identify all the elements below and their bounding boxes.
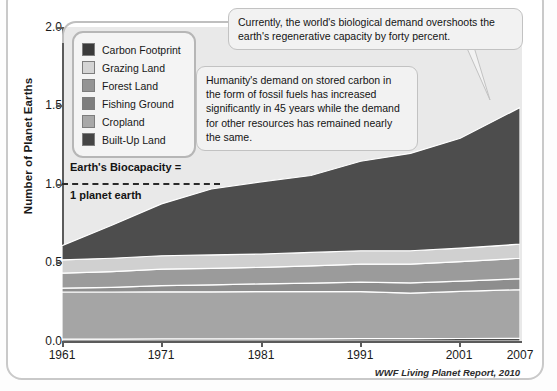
x-tick-1991: 1991 — [330, 348, 390, 362]
chart-legend: Carbon Footprint Grazing Land Forest Lan… — [72, 31, 196, 158]
callout-text: Humanity's demand on stored carbon in th… — [206, 73, 408, 144]
x-tick-1971: 1971 — [131, 348, 191, 362]
legend-swatch-icon — [82, 133, 95, 146]
legend-item-cropland: Cropland — [82, 113, 187, 130]
callout-text: Currently, the world's biological demand… — [238, 15, 513, 43]
x-tickmark-2001 — [459, 341, 461, 347]
x-tickmark-1981 — [261, 341, 263, 347]
x-tick-1961: 1961 — [32, 348, 92, 362]
x-tick-2001: 2001 — [429, 348, 489, 362]
legend-label: Built-Up Land — [102, 134, 166, 146]
callout-overshoot: Currently, the world's biological demand… — [228, 8, 523, 50]
x-tick-1981: 1981 — [231, 348, 291, 362]
y-tick-0.0: 0.0 — [28, 334, 62, 348]
legend-item-forest-land: Forest Land — [82, 77, 187, 94]
legend-item-grazing-land: Grazing Land — [82, 59, 187, 76]
x-tick-2007: 2007 — [490, 348, 550, 362]
y-axis-ticks: 2.0 1.5 1.0 0.5 0.0 — [16, 0, 62, 391]
legend-swatch-icon — [82, 61, 95, 74]
legend-label: Cropland — [102, 116, 145, 128]
legend-swatch-icon — [82, 115, 95, 128]
legend-item-fishing-ground: Fishing Ground — [82, 95, 187, 112]
legend-label: Fishing Ground — [102, 98, 174, 110]
callout-carbon-demand: Humanity's demand on stored carbon in th… — [196, 66, 418, 151]
biocapacity-label-top: Earth's Biocapacity = — [70, 161, 181, 173]
chart-page: Number of Planet Earths 2.0 1.5 1.0 0.5 … — [0, 0, 557, 391]
legend-item-built-up-land: Built-Up Land — [82, 131, 187, 148]
legend-label: Carbon Footprint — [102, 44, 181, 56]
legend-label: Forest Land — [102, 80, 158, 92]
legend-swatch-icon — [82, 43, 95, 56]
x-tickmark-1991 — [360, 341, 362, 347]
legend-swatch-icon — [82, 79, 95, 92]
source-credit: WWF Living Planet Report, 2010 — [330, 367, 520, 378]
legend-item-carbon-footprint: Carbon Footprint — [82, 41, 187, 58]
legend-label: Grazing Land — [102, 62, 165, 74]
area-band-cropland — [62, 290, 520, 339]
x-tickmark-1961 — [62, 341, 64, 347]
legend-swatch-icon — [82, 97, 95, 110]
x-tickmark-1971 — [161, 341, 163, 347]
biocapacity-reference-line — [62, 183, 220, 185]
biocapacity-label-bottom: 1 planet earth — [70, 189, 142, 201]
